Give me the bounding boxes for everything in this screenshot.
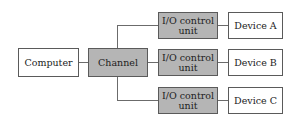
io-control-unit-a: I/O control unit <box>158 12 218 39</box>
io-control-unit-label-line2: unit <box>178 63 197 73</box>
device-a-label: Device A <box>234 21 276 31</box>
connector-io-a-device-a <box>218 25 228 26</box>
device-c-label: Device C <box>234 96 277 106</box>
connector-channel-io-b <box>148 62 158 63</box>
io-control-unit-label-line2: unit <box>178 26 197 36</box>
channel-label: Channel <box>98 58 138 68</box>
connector-trunk-io-c <box>117 100 158 101</box>
device-b-box: Device B <box>228 49 283 76</box>
connector-channel-trunk <box>117 25 118 48</box>
device-a-box: Device A <box>228 12 283 39</box>
io-control-unit-label-line1: I/O control <box>162 16 214 26</box>
io-control-unit-label-line1: I/O control <box>162 53 214 63</box>
io-control-unit-c: I/O control unit <box>158 87 218 114</box>
io-control-unit-label-line2: unit <box>178 101 197 111</box>
channel-io-diagram: Computer Channel I/O control unit I/O co… <box>0 0 302 124</box>
computer-box: Computer <box>18 48 79 77</box>
channel-box: Channel <box>88 48 148 77</box>
device-c-box: Device C <box>228 87 283 114</box>
connector-computer-channel <box>79 62 88 63</box>
connector-trunk-io-a <box>117 25 158 26</box>
device-b-label: Device B <box>234 58 277 68</box>
computer-label: Computer <box>24 58 72 68</box>
connector-io-b-device-b <box>218 62 228 63</box>
connector-io-c-device-c <box>218 100 228 101</box>
io-control-unit-b: I/O control unit <box>158 49 218 76</box>
connector-channel-trunk-lower <box>117 77 118 101</box>
io-control-unit-label-line1: I/O control <box>162 91 214 101</box>
